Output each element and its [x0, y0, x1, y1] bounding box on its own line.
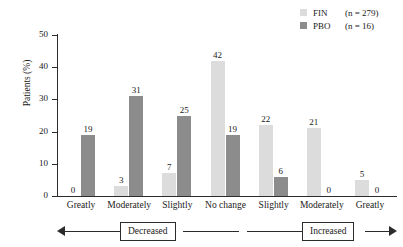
bar-group: 019: [59, 35, 103, 196]
bar-value-label: 19: [73, 124, 103, 134]
bar-pbo: 0: [370, 35, 384, 196]
bar-rect: [81, 135, 95, 196]
y-axis-label: Patients (%): [22, 23, 32, 143]
bar-rect: [226, 135, 240, 196]
bar-rect: [162, 173, 176, 196]
y-tick-label: 20: [8, 127, 48, 136]
bar-pbo: 31: [129, 35, 143, 196]
bar-rect: [129, 96, 143, 196]
bar-chart: FIN (n = 279) PBO (n = 16) Patients (%) …: [0, 0, 403, 247]
bar-rect: [177, 116, 191, 197]
bar-group: 226: [252, 35, 296, 196]
bar-value-label: 31: [121, 85, 151, 95]
bar-rect: [259, 125, 273, 196]
dir-line-right-outer: [247, 231, 303, 232]
y-tick-label: 30: [8, 94, 48, 103]
bar-pbo: 19: [226, 35, 240, 196]
bar-fin: 42: [211, 35, 225, 196]
dir-line-right-inner: [365, 231, 389, 232]
x-axis-category-labels: GreatlyModeratelySlightlyNo changeSlight…: [57, 198, 397, 214]
dir-line-left-outer: [183, 231, 239, 232]
bar-value-label: 19: [218, 124, 248, 134]
bar-fin: 7: [162, 35, 176, 196]
arrow-left-icon: [57, 226, 65, 236]
bar-fin: 3: [114, 35, 128, 196]
bar-group: 210: [300, 35, 344, 196]
x-category-label: Greatly: [341, 198, 399, 212]
bar-group: 725: [155, 35, 199, 196]
bar-pbo: 6: [274, 35, 288, 196]
legend-label-pbo: PBO: [313, 21, 345, 31]
bar-group: 50: [348, 35, 392, 196]
legend-label-fin: FIN: [313, 8, 345, 18]
direction-annotation: Decreased Increased: [57, 222, 397, 242]
bar-group: 4219: [204, 35, 248, 196]
plot-area: 019331725421922621050: [57, 35, 394, 196]
decreased-box: Decreased: [120, 222, 176, 241]
legend-swatch-pbo-icon: [300, 22, 307, 29]
arrow-right-icon: [389, 226, 397, 236]
bar-value-label: 25: [169, 105, 199, 115]
legend-n-fin: (n = 279): [345, 8, 379, 18]
legend-item-pbo: PBO (n = 16): [300, 19, 400, 32]
bar-fin: 0: [66, 35, 80, 196]
y-tick-label: 0: [8, 191, 48, 200]
bar-value-label: 6: [266, 166, 296, 176]
chart-legend: FIN (n = 279) PBO (n = 16): [300, 6, 400, 32]
bar-pbo: 0: [322, 35, 336, 196]
x-axis-line: [57, 196, 397, 197]
bar-value-label: 0: [362, 185, 392, 195]
bar-rect: [274, 177, 288, 196]
bar-fin: 21: [307, 35, 321, 196]
bar-fin: 5: [355, 35, 369, 196]
y-tick-label: 40: [8, 62, 48, 71]
increased-box: Increased: [302, 222, 354, 241]
bar-value-label: 0: [314, 185, 344, 195]
bar-pbo: 19: [81, 35, 95, 196]
bar-rect: [114, 186, 128, 196]
dir-line-left-inner: [65, 231, 121, 232]
y-tick-label: 10: [8, 159, 48, 168]
bar-group: 331: [107, 35, 151, 196]
legend-swatch-fin-icon: [300, 9, 307, 16]
legend-item-fin: FIN (n = 279): [300, 6, 400, 19]
bar-pbo: 25: [177, 35, 191, 196]
legend-n-pbo: (n = 16): [345, 21, 374, 31]
y-tick-label: 50: [8, 30, 48, 39]
